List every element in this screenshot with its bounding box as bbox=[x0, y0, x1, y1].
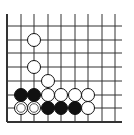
white-stone bbox=[42, 89, 55, 102]
black-stone bbox=[69, 102, 82, 115]
white-stone bbox=[28, 61, 41, 74]
white-stone bbox=[28, 34, 41, 47]
white-stone bbox=[28, 102, 41, 115]
stones-layer bbox=[15, 34, 95, 115]
white-stone bbox=[82, 89, 95, 102]
white-stone bbox=[55, 89, 68, 102]
black-stone bbox=[42, 102, 55, 115]
go-board bbox=[0, 0, 134, 135]
black-stone bbox=[55, 102, 68, 115]
white-stone bbox=[15, 102, 28, 115]
white-stone bbox=[42, 75, 55, 88]
white-stone bbox=[82, 102, 95, 115]
white-stone bbox=[69, 89, 82, 102]
black-stone bbox=[28, 89, 41, 102]
black-stone bbox=[15, 89, 28, 102]
